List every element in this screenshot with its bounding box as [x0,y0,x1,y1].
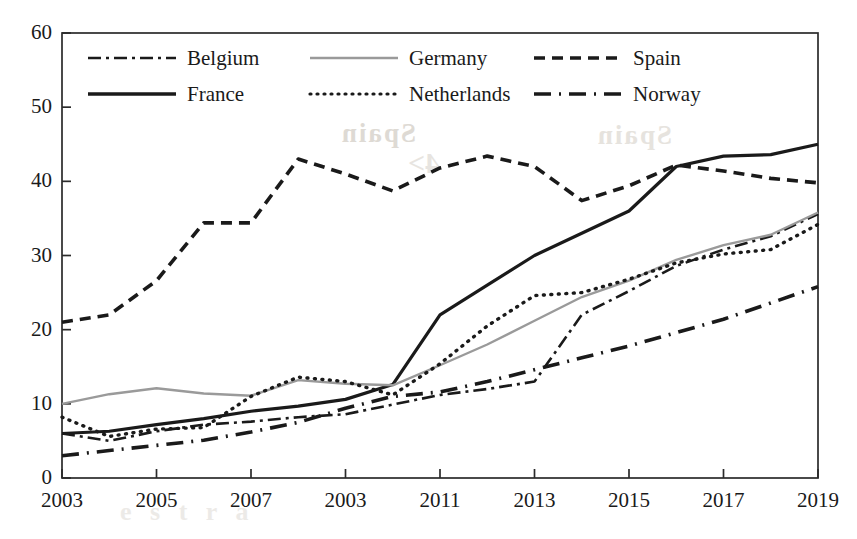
x-tick-label: 2015 [589,488,669,513]
dotted-line-icon [308,86,400,102]
legend-item-spain[interactable]: Spain [532,43,736,73]
y-tick-label: 50 [6,94,52,119]
legend-item-belgium[interactable]: Belgium [86,43,308,73]
x-tick-label: 2007 [211,488,291,513]
x-tick-label: 2003 [306,488,386,513]
y-tick-label: 60 [6,20,52,45]
legend-label: France [187,84,244,105]
series-line-spain [62,156,818,322]
y-tick-label: 0 [6,465,52,490]
legend-label: Netherlands [409,84,510,105]
x-tick-label: 2013 [495,488,575,513]
legend-item-france[interactable]: France [86,79,308,109]
legend-label: Belgium [187,48,259,69]
dashdot-line-icon [86,50,178,66]
dashed-line-icon [532,50,624,66]
x-tick-label: 2003 [22,488,102,513]
legend-item-germany[interactable]: Germany [308,43,532,73]
y-tick-label: 30 [6,243,52,268]
line-chart-figure: Spain Spain 4> e s t r a 0102030405060 2… [0,0,857,539]
longdash-line-icon [532,86,624,102]
x-tick-label: 2017 [684,488,764,513]
chart-legend: Belgium Germany Spain France Netherlands [86,40,736,112]
x-tick-label: 2019 [778,488,857,513]
series-line-germany [62,212,818,403]
x-axis-ticks [62,469,818,478]
legend-label: Germany [409,48,487,69]
y-tick-label: 40 [6,168,52,193]
solid-black-line-icon [86,86,178,102]
series-line-netherlands [62,224,818,436]
x-tick-label: 2005 [117,488,197,513]
solid-gray-line-icon [308,50,400,66]
y-tick-label: 10 [6,391,52,416]
legend-item-netherlands[interactable]: Netherlands [308,79,532,109]
series-line-belgium [62,214,818,441]
y-axis-ticks [62,33,71,478]
legend-label: Spain [633,48,681,69]
series-line-norway [62,287,818,456]
x-tick-label: 2011 [400,488,480,513]
data-series-layer [62,144,818,456]
legend-label: Norway [633,84,701,105]
y-tick-label: 20 [6,317,52,342]
legend-item-norway[interactable]: Norway [532,79,736,109]
